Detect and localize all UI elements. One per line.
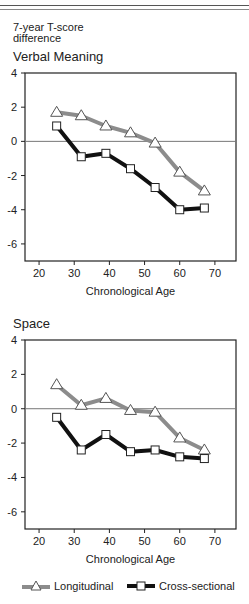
square-marker — [151, 446, 159, 454]
square-icon — [127, 580, 155, 592]
legend-label-longitudinal: Longitudinal — [54, 580, 113, 592]
square-marker — [53, 413, 61, 421]
x-tick-label: 30 — [68, 535, 80, 547]
x-axis-title-verbal-meaning: Chronological Age — [25, 285, 236, 297]
legend-label-cross-sectional: Cross-sectional — [159, 580, 235, 592]
y-tick-label: -4 — [7, 204, 17, 216]
x-tick-label: 70 — [209, 267, 221, 279]
y-tick-label: -6 — [7, 238, 17, 250]
square-marker — [53, 122, 61, 130]
legend-item-longitudinal: Longitudinal — [22, 580, 113, 592]
y-tick-label: 4 — [11, 67, 17, 79]
square-marker — [151, 184, 159, 192]
x-tick-label: 20 — [33, 267, 45, 279]
x-tick-label: 40 — [103, 267, 115, 279]
x-tick-label: 40 — [103, 535, 115, 547]
y-tick-label: -4 — [7, 471, 17, 483]
y-tick-label: 0 — [11, 403, 17, 415]
x-tick-label: 60 — [174, 535, 186, 547]
y-tick-label: 2 — [11, 101, 17, 113]
x-tick-label: 70 — [209, 535, 221, 547]
square-marker — [102, 149, 110, 157]
x-tick-label: 50 — [138, 535, 150, 547]
legend: Longitudinal Cross-sectional — [22, 580, 242, 596]
square-marker — [200, 204, 208, 212]
y-tick-label: -2 — [7, 170, 17, 182]
plot-frame — [25, 340, 236, 529]
y-tick-label: 0 — [11, 135, 17, 147]
square-marker — [77, 153, 85, 161]
triangle-marker — [100, 392, 112, 402]
square-marker — [127, 448, 135, 456]
chart-panel-0: 420-2-4-6203040506070 — [7, 67, 236, 279]
square-marker — [127, 165, 135, 173]
y-tick-label: 2 — [11, 368, 17, 380]
x-axis-title-space: Chronological Age — [25, 553, 236, 565]
y-tick-label: -6 — [7, 506, 17, 518]
chart-canvas: 420-2-4-6203040506070420-2-4-62030405060… — [0, 0, 249, 604]
square-marker — [176, 453, 184, 461]
square-marker — [77, 446, 85, 454]
x-tick-label: 30 — [68, 267, 80, 279]
triangle-icon — [22, 580, 50, 592]
x-tick-label: 50 — [138, 267, 150, 279]
chart-panel-1: 420-2-4-6203040506070 — [7, 334, 236, 547]
square-marker — [176, 206, 184, 214]
x-tick-label: 60 — [174, 267, 186, 279]
legend-item-cross-sectional: Cross-sectional — [127, 580, 235, 592]
triangle-marker — [51, 379, 63, 389]
square-marker — [102, 431, 110, 439]
square-marker — [200, 455, 208, 463]
y-tick-label: 4 — [11, 334, 17, 346]
x-tick-label: 20 — [33, 535, 45, 547]
y-tick-label: -2 — [7, 437, 17, 449]
